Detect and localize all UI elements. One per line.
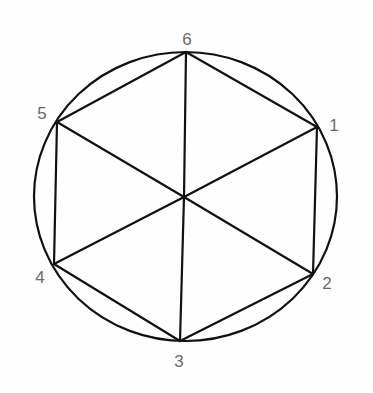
edge-4-5	[54, 122, 57, 264]
vertex-labels: 123456	[35, 30, 338, 371]
edge-5-6	[57, 52, 186, 122]
vertex-label-4: 4	[35, 268, 44, 287]
hexagon-circle-diagram: 123456	[0, 0, 373, 393]
spoke-center-1	[184, 127, 317, 197]
hexagon-spokes	[54, 52, 317, 341]
spoke-center-4	[54, 197, 184, 264]
vertex-label-3: 3	[174, 352, 183, 371]
edge-2-3	[180, 274, 313, 341]
diagram-canvas: 123456	[0, 0, 373, 393]
vertex-label-1: 1	[329, 116, 338, 135]
edge-3-4	[54, 264, 180, 341]
spoke-center-5	[57, 122, 184, 197]
vertex-label-2: 2	[322, 274, 331, 293]
vertex-label-6: 6	[182, 30, 191, 49]
spoke-center-2	[184, 197, 313, 274]
edge-6-1	[186, 52, 317, 127]
spoke-center-6	[184, 52, 186, 197]
vertex-label-5: 5	[37, 104, 46, 123]
spoke-center-3	[180, 197, 184, 341]
edge-1-2	[313, 127, 317, 274]
